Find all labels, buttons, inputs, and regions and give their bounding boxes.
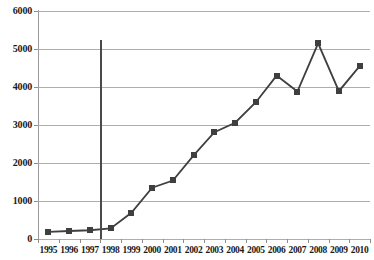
data-point-marker [357, 63, 363, 69]
data-point-marker [66, 228, 72, 234]
x-tick-mark [349, 239, 350, 243]
x-tick-mark [246, 239, 247, 243]
data-point-marker [149, 185, 155, 191]
y-tick-label: 5000 [0, 44, 32, 54]
y-tick-label: 3000 [0, 120, 32, 130]
data-point-marker [336, 88, 342, 94]
data-point-marker [294, 89, 300, 95]
data-point-marker [253, 99, 259, 105]
y-tick-label: 4000 [0, 82, 32, 92]
data-point-marker [191, 152, 197, 158]
x-tick-mark [100, 239, 101, 243]
line-chart: 0100020003000400050006000 19951996199719… [0, 0, 374, 260]
data-point-marker [232, 120, 238, 126]
x-tick-mark [308, 239, 309, 243]
y-tick-label: 1000 [0, 196, 32, 206]
data-point-marker [128, 210, 134, 216]
vertical-reference-line [100, 40, 102, 240]
data-point-marker [45, 229, 51, 235]
x-tick-mark [121, 239, 122, 243]
x-tick-mark [287, 239, 288, 243]
x-tick-mark [142, 239, 143, 243]
data-point-marker [87, 227, 93, 233]
x-tick-mark [59, 239, 60, 243]
x-tick-mark [225, 239, 226, 243]
x-tick-mark [329, 239, 330, 243]
x-tick-mark [370, 239, 371, 243]
y-tick-label: 0 [0, 234, 32, 244]
data-point-marker [315, 40, 321, 46]
data-point-marker [211, 129, 217, 135]
x-tick-mark [204, 239, 205, 243]
y-tick-label: 2000 [0, 158, 32, 168]
x-tick-label: 2010 [346, 245, 374, 256]
y-tick-label: 6000 [0, 6, 32, 16]
x-tick-mark [163, 239, 164, 243]
x-tick-mark [38, 239, 39, 243]
plot-area: 0100020003000400050006000 [38, 11, 370, 239]
x-tick-mark [183, 239, 184, 243]
data-point-marker [274, 73, 280, 79]
x-tick-mark [266, 239, 267, 243]
data-point-marker [108, 225, 114, 231]
x-tick-mark [80, 239, 81, 243]
data-point-marker [170, 177, 176, 183]
